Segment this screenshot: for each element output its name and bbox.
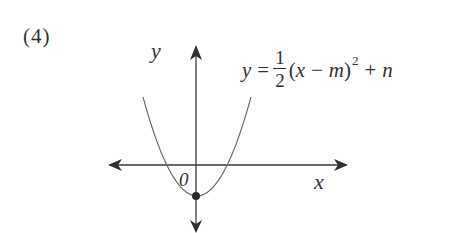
equation-exponent: 2 bbox=[352, 53, 359, 69]
origin-label: 0 bbox=[179, 170, 189, 189]
equation-minus: − bbox=[311, 58, 323, 83]
equation-fraction: 1 2 bbox=[273, 48, 287, 90]
fraction-numerator: 1 bbox=[273, 48, 287, 68]
y-axis bbox=[190, 45, 202, 233]
parabola-curve bbox=[143, 97, 251, 196]
x-axis-label: x bbox=[314, 171, 324, 193]
equation-close-paren: ) bbox=[344, 58, 351, 83]
equation-open-paren: ( bbox=[289, 58, 296, 83]
equation-var-x: x bbox=[296, 58, 305, 83]
equation-lhs: y bbox=[242, 58, 251, 83]
fraction-denominator: 2 bbox=[273, 69, 287, 90]
intercept-dot bbox=[192, 192, 200, 200]
equation-var-n: n bbox=[382, 58, 393, 83]
parabola-equation: y = 1 2 ( x − m ) 2 + n bbox=[242, 46, 393, 94]
equation-plus: + bbox=[365, 58, 377, 83]
x-axis bbox=[108, 159, 348, 171]
equation-equals: = bbox=[257, 58, 269, 83]
equation-var-m: m bbox=[329, 58, 344, 83]
coordinate-graph bbox=[0, 0, 451, 233]
y-axis-label: y bbox=[151, 40, 161, 62]
